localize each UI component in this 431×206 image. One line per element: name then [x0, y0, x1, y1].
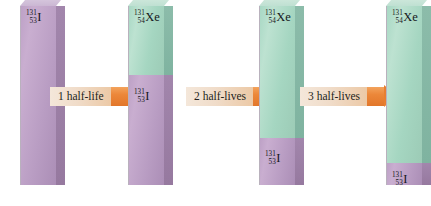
bar-2-side-face-iodine [295, 138, 304, 185]
bar-1-side-face-iodine [164, 75, 173, 185]
arrow-2-label: 2 half-lives [186, 87, 253, 106]
bar-3-label-xenon: 131 54 Xe [392, 10, 418, 25]
decay-diagram: 131 53 I 1 half-life 131 54 Xe 131 53 [0, 0, 431, 206]
bar-2-xenon-symbol: Xe [276, 11, 291, 24]
bar-2-xenon-numbers: 131 54 [265, 10, 276, 25]
bar-1-xenon-numbers: 131 54 [134, 10, 145, 25]
arrow-1-label: 1 half-life [50, 87, 111, 106]
bar-2-segment-xenon [260, 6, 295, 138]
bar-3-iodine-symbol: I [403, 173, 407, 186]
bar-1-label-iodine: 131 53 I [134, 89, 149, 104]
bar-1-label-xenon: 131 54 Xe [134, 10, 160, 25]
bar-3-segment-xenon [387, 6, 422, 163]
bar-0-label-iodine: 131 53 I [26, 10, 41, 25]
bar-0-iodine-numbers: 131 53 [26, 10, 37, 25]
bar-0-iodine-symbol: I [37, 11, 41, 24]
arrow-3-half-lives: 3 half-lives [300, 85, 397, 107]
bar-1-xenon-symbol: Xe [145, 11, 160, 24]
arrow-1-shaft [111, 87, 128, 106]
bar-3-iodine-numbers: 131 53 [392, 172, 403, 187]
bar-3-side-face-iodine [422, 163, 431, 185]
bar-2-label-iodine: 131 53 I [265, 151, 280, 166]
bar-3-half-lives: 131 54 Xe 131 53 I [386, 6, 422, 185]
bar-2-label-xenon: 131 54 Xe [265, 10, 291, 25]
bar-1-side-face-xenon [164, 6, 173, 75]
bar-2-iodine-numbers: 131 53 [265, 151, 276, 166]
bar-3-xenon-symbol: Xe [403, 11, 418, 24]
bar-1-iodine-symbol: I [145, 90, 149, 103]
bar-3-xenon-numbers: 131 54 [392, 10, 403, 25]
bar-1-half-life: 131 54 Xe 131 53 I [128, 6, 164, 185]
arrow-3-label: 3 half-lives [300, 87, 367, 106]
bar-3-label-iodine: 131 53 I [392, 172, 407, 187]
bar-2-half-lives: 131 54 Xe 131 53 I [259, 6, 295, 185]
bar-3-side-face-xenon [422, 6, 431, 163]
bar-2-side-face-xenon [295, 6, 304, 138]
bar-2-iodine-symbol: I [276, 152, 280, 165]
bar-3-front-face [386, 6, 422, 185]
bar-1-iodine-numbers: 131 53 [134, 89, 145, 104]
arrow-3-shaft [367, 87, 384, 106]
